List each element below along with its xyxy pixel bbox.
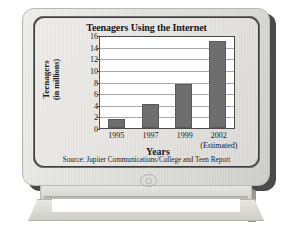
y-axis-tick-label: 12 <box>90 55 98 64</box>
plot-wrapper: 0246810121416 <box>81 36 235 130</box>
x-axis-label-year: 1995 <box>108 131 124 140</box>
bar-series <box>100 37 234 128</box>
x-axis-label-year: 2002 <box>211 131 227 140</box>
chart-title: Teenagers Using the Internet <box>35 22 258 33</box>
y-axis-title-line2: (in millions) <box>51 44 61 116</box>
x-axis-label-1997: 1997 <box>142 131 158 141</box>
y-axis-tick-label: 4 <box>94 101 98 110</box>
monitor-screen: Teenagers Using the Internet Teenagers (… <box>35 18 258 166</box>
y-axis-tick-label: 6 <box>94 90 98 99</box>
y-axis-tick-label: 16 <box>90 32 98 41</box>
y-axis-tick-label: 0 <box>94 125 98 134</box>
y-axis-title-line1: Teenagers <box>42 44 52 116</box>
power-emblem-icon[interactable] <box>140 174 157 187</box>
monitor-base-notch <box>52 199 240 212</box>
computer-monitor-figure: Teenagers Using the Internet Teenagers (… <box>0 0 297 229</box>
bar-1995 <box>108 119 125 128</box>
bar-2002 <box>209 41 226 128</box>
chart-source-note: Source: Jupiter Communications/College a… <box>35 156 258 164</box>
y-axis-tick-label: 2 <box>94 113 98 122</box>
y-axis-tick-label: 10 <box>90 66 98 75</box>
y-axis-tick-label: 14 <box>90 43 98 52</box>
x-axis-label-1995: 1995 <box>108 131 124 141</box>
x-axis-label-year: 1999 <box>177 131 193 140</box>
x-axis-label-1999: 1999 <box>177 131 193 141</box>
x-axis-label-year: 1997 <box>142 131 158 140</box>
bar-1999 <box>175 84 192 128</box>
bar-1997 <box>142 104 159 128</box>
y-axis-title: Teenagers (in millions) <box>42 44 61 116</box>
y-axis-tick-label: 8 <box>94 78 98 87</box>
